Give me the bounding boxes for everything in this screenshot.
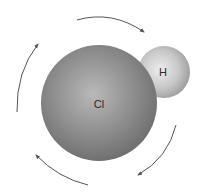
rotation-arrow-left [17,44,38,112]
hcl-rotation-diagram: Cl H [0,0,202,196]
diagram-svg: Cl H [0,0,202,196]
rotation-arrow-bottom [36,155,88,185]
rotation-arrow-top [77,17,144,32]
chlorine-label: Cl [94,98,104,110]
hydrogen-label: H [159,66,167,78]
